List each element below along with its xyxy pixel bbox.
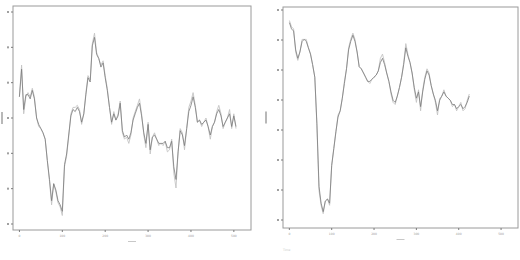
x-tick-label: 200 xyxy=(371,232,377,236)
series-dark-line xyxy=(289,23,469,212)
x-tick-label: 300 xyxy=(145,234,151,238)
y-tick-label xyxy=(7,152,9,154)
x-tick-label: 300 xyxy=(414,232,420,236)
y-axis-label xyxy=(1,112,3,124)
x-tick-label: 200 xyxy=(102,234,108,238)
y-tick-label xyxy=(7,11,9,13)
y-tick-label xyxy=(7,46,9,48)
y-tick-label xyxy=(7,82,9,84)
y-tick-label xyxy=(277,129,279,131)
y-tick-label xyxy=(277,99,279,101)
x-tick-label: 500 xyxy=(231,234,237,238)
y-tick-label xyxy=(277,39,279,41)
x-axis-label xyxy=(128,241,136,242)
left-chart-panel: 0100200300400500 xyxy=(0,0,260,260)
x-tick-label: 0 xyxy=(288,232,290,236)
x-tick-label: 0 xyxy=(18,234,20,238)
y-tick-label xyxy=(277,9,279,11)
left-line-chart: 0100200300400500 xyxy=(0,0,260,260)
x-tick-label: 100 xyxy=(59,234,65,238)
x-axis-label xyxy=(397,239,405,240)
x-tick-label: 400 xyxy=(456,232,462,236)
y-tick-label xyxy=(7,223,9,225)
y-tick-label xyxy=(277,189,279,191)
series-dark-line xyxy=(19,37,236,211)
x-tick-label: 400 xyxy=(188,234,194,238)
y-tick-label xyxy=(7,188,9,190)
y-axis-label xyxy=(265,112,267,124)
series-light-line xyxy=(19,33,236,215)
y-tick-label xyxy=(277,69,279,71)
y-tick-label xyxy=(277,159,279,161)
plot-frame xyxy=(283,7,518,228)
x-tick-label: 500 xyxy=(498,232,504,236)
y-tick-label xyxy=(277,219,279,221)
x-tick-label: 100 xyxy=(329,232,335,236)
y-tick-label xyxy=(7,117,9,119)
right-line-chart: 0100200300400500 xyxy=(262,0,520,260)
right-chart-panel: 0100200300400500 xyxy=(262,0,520,260)
figure-caption: Time xyxy=(283,248,290,252)
